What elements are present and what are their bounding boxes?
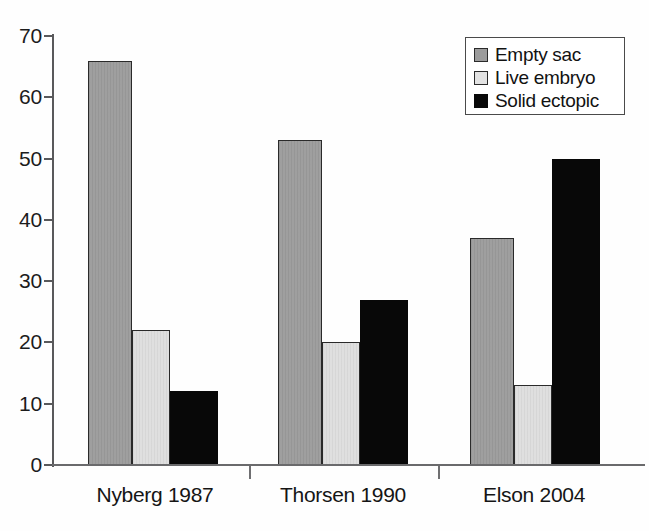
bar-live_embryo-1 <box>322 342 360 465</box>
y-axis-tick-label: 60 <box>2 86 42 107</box>
chart-legend: Empty sacLive embryoSolid ectopic <box>465 37 625 115</box>
y-axis-tick-label: 0 <box>2 454 42 475</box>
bar-empty_sac-2 <box>470 238 514 465</box>
y-axis-tick <box>44 403 53 405</box>
y-axis-tick <box>44 280 53 282</box>
y-axis-tick-label: 30 <box>2 270 42 291</box>
legend-label-solid_ectopic: Solid ectopic <box>495 91 599 110</box>
bar-live_embryo-2 <box>514 385 552 465</box>
x-axis-category-label-2: Elson 2004 <box>483 484 585 505</box>
legend-item-empty_sac[interactable]: Empty sac <box>474 43 624 66</box>
legend-item-live_embryo[interactable]: Live embryo <box>474 66 624 89</box>
bar-solid_ectopic-1 <box>360 300 408 465</box>
y-axis-tick <box>44 341 53 343</box>
bar-empty_sac-0 <box>88 61 132 465</box>
bar-solid_ectopic-0 <box>170 391 218 465</box>
y-axis-tick <box>44 35 53 37</box>
y-axis-tick <box>44 96 53 98</box>
x-axis-category-label-0: Nyberg 1987 <box>97 484 214 505</box>
legend-swatch-solid_ectopic-icon <box>474 94 488 108</box>
y-axis-tick <box>44 219 53 221</box>
y-axis-tick-label: 20 <box>2 331 42 352</box>
x-axis-separator-tick <box>438 466 440 479</box>
x-axis-separator-tick <box>249 466 251 479</box>
legend-swatch-empty_sac-icon <box>474 48 488 62</box>
bar-empty_sac-1 <box>278 140 322 465</box>
y-axis-tick <box>44 158 53 160</box>
bar-solid_ectopic-2 <box>552 159 600 465</box>
legend-label-empty_sac: Empty sac <box>495 45 581 64</box>
x-axis-line <box>52 464 645 466</box>
y-axis-tick-label: 50 <box>2 148 42 169</box>
legend-swatch-live_embryo-icon <box>474 71 488 85</box>
y-axis-tick-label: 40 <box>2 209 42 230</box>
x-axis-category-label-1: Thorsen 1990 <box>280 484 406 505</box>
y-axis-tick-label: 70 <box>2 25 42 46</box>
y-axis-tick-label: 10 <box>2 393 42 414</box>
legend-label-live_embryo: Live embryo <box>495 68 595 87</box>
bar-chart: 010203040506070 Nyberg 1987Thorsen 1990E… <box>0 0 649 531</box>
bar-live_embryo-0 <box>132 330 170 465</box>
legend-item-solid_ectopic[interactable]: Solid ectopic <box>474 89 624 112</box>
